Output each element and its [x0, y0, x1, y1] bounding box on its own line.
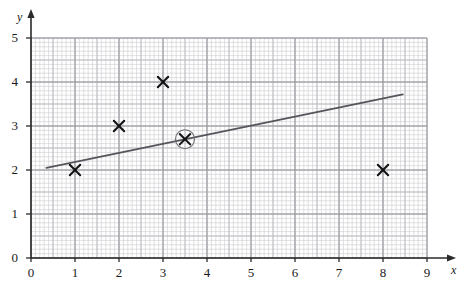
x-tick-label: 3 — [143, 265, 183, 281]
x-axis-label: x — [451, 263, 456, 278]
x-tick-label: 6 — [275, 265, 315, 281]
x-tick-label: 8 — [363, 265, 403, 281]
grid-medium-lines — [31, 38, 427, 258]
y-tick-label: 3 — [0, 118, 18, 134]
x-tick-label: 2 — [99, 265, 139, 281]
scatter-plot-figure: 0123456789 012345 x y — [0, 0, 458, 299]
x-tick-label: 4 — [187, 265, 227, 281]
x-tick-label: 5 — [231, 265, 271, 281]
y-axis-label: y — [17, 10, 22, 25]
axis-tick-marks — [26, 38, 427, 262]
y-tick-label: 1 — [0, 206, 18, 222]
x-tick-label: 1 — [55, 265, 95, 281]
plot-canvas — [0, 0, 458, 299]
y-tick-label: 0 — [0, 250, 18, 266]
y-tick-label: 2 — [0, 162, 18, 178]
y-tick-label: 4 — [0, 74, 18, 90]
x-tick-label: 7 — [319, 265, 359, 281]
y-tick-label: 5 — [0, 30, 18, 46]
x-tick-label: 9 — [407, 265, 447, 281]
x-tick-label: 0 — [11, 265, 51, 281]
